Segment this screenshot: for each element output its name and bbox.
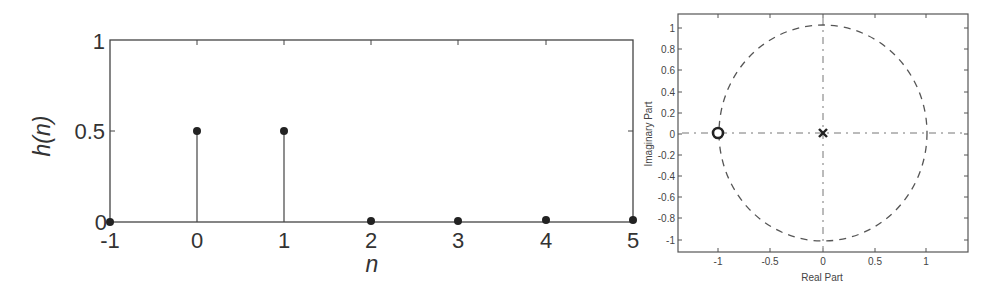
pz-x-tick-label: -0.5	[761, 256, 779, 267]
pz-x-tick-label: 1	[923, 256, 929, 267]
pole-zero-plot: 1 0.8 0.6 0.4 0.2 0 -0.2 -0.4 -0.6 -0.8 …	[643, 14, 968, 283]
x-tick-label: 2	[365, 228, 377, 253]
pz-x-tick-label: -1	[714, 256, 723, 267]
data-point	[454, 217, 462, 225]
pz-x-axis-label: Real Part	[801, 272, 843, 283]
data-point	[542, 216, 550, 224]
pz-y-tick-label: 1	[669, 23, 675, 34]
pz-y-tick-label: -0.4	[658, 171, 676, 182]
pz-y-tick-label: -1	[666, 235, 675, 246]
pz-x-tick-label: 0.5	[868, 256, 882, 267]
pz-y-tick-label: -0.8	[658, 213, 676, 224]
data-point	[193, 127, 201, 135]
pz-x-tick-label: 0	[820, 256, 826, 267]
figure: 1 0.5 0 -1 0 1 2 3 4 5 n h(n)	[0, 0, 998, 298]
data-point	[106, 218, 114, 226]
stems	[197, 131, 284, 222]
pz-y-tick-label: 0.6	[661, 65, 675, 76]
x-tick-label: 0	[191, 228, 203, 253]
y-axis-label: h(n)	[29, 116, 55, 157]
x-tick-label: 4	[540, 228, 552, 253]
pz-y-tick-label: -0.6	[658, 192, 676, 203]
pz-y-tick-label: -0.2	[658, 150, 676, 161]
zero-marker	[713, 128, 723, 138]
x-tick-label: 5	[627, 228, 639, 253]
data-point	[629, 216, 637, 224]
pz-y-tick-label: 0	[669, 129, 675, 140]
x-axis-label: n	[366, 251, 379, 277]
x-tick-label: 3	[452, 228, 464, 253]
x-tick-label: 1	[278, 228, 290, 253]
pz-y-axis-label: Imaginary Part	[643, 101, 654, 166]
pz-y-tick-label: 0.8	[661, 44, 675, 55]
stem-markers	[106, 127, 637, 226]
pz-y-tick-label: 0.2	[661, 108, 675, 119]
y-tick-label: 0.5	[74, 119, 105, 144]
stem-plot-frame	[110, 40, 633, 222]
x-tick-label: -1	[100, 228, 120, 253]
pz-y-tick-label: 0.4	[661, 87, 675, 98]
stem-plot: 1 0.5 0 -1 0 1 2 3 4 5 n h(n)	[29, 29, 639, 277]
data-point	[280, 127, 288, 135]
data-point	[367, 217, 375, 225]
y-tick-label: 1	[93, 29, 105, 54]
